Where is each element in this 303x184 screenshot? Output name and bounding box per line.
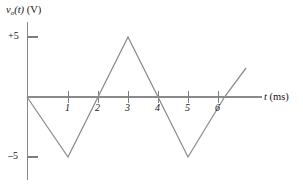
waveform-chart: [0, 0, 303, 184]
y-tick-label-minus5: –5: [8, 151, 18, 161]
y-tick-label-plus5: +5: [8, 31, 19, 41]
x-tick-label-3: 3: [125, 103, 130, 113]
x-tick-label-5: 5: [185, 103, 190, 113]
x-axis-title-unit: (ms): [270, 91, 289, 102]
x-axis-title-var: t: [264, 91, 267, 102]
x-tick-label-1: 1: [65, 103, 70, 113]
x-tick-label-2: 2: [95, 103, 100, 113]
x-axis-title: t (ms): [264, 92, 289, 103]
figure-container: vo(t) (V) t (ms) +5 –5 1 2 3 4 5 6: [0, 0, 303, 184]
y-axis-title: vo(t) (V): [6, 5, 41, 17]
y-axis-title-unit: (V): [27, 4, 42, 15]
x-tick-label-6: 6: [215, 103, 220, 113]
x-tick-label-4: 4: [155, 103, 160, 113]
y-axis-title-arg: (t): [14, 4, 24, 15]
